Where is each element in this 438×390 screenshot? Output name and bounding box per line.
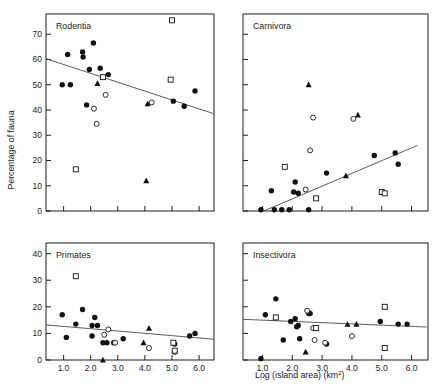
data-point-filled-circle	[287, 207, 292, 212]
data-point-open-circle	[311, 115, 316, 120]
x-tick-label: 3.0	[112, 363, 124, 373]
multi-panel-scatter-figure: 010203040506070RodentiaCarnivora01020304…	[0, 0, 438, 390]
series-filled-circle	[60, 307, 198, 347]
data-point-open-circle	[323, 340, 328, 345]
data-point-filled-circle	[60, 82, 65, 87]
data-point-open-square	[170, 18, 175, 23]
data-point-open-square	[73, 274, 78, 279]
data-point-filled-circle	[87, 67, 92, 72]
data-point-open-circle	[305, 308, 310, 313]
data-point-filled-triangle	[141, 340, 147, 346]
data-point-filled-circle	[121, 336, 126, 341]
panel-title-insectivora: Insectivora	[253, 250, 296, 260]
x-tick-label: 2.0	[85, 363, 97, 373]
data-point-filled-circle	[187, 333, 192, 338]
x-tick-label: 1.0	[58, 363, 70, 373]
data-point-open-circle	[103, 92, 108, 97]
data-point-open-square	[273, 315, 278, 320]
data-point-filled-circle	[73, 321, 78, 326]
data-point-open-circle	[349, 334, 354, 339]
data-point-filled-triangle	[306, 82, 312, 88]
series-filled-triangle	[306, 82, 361, 179]
data-point-filled-circle	[104, 340, 109, 345]
data-point-filled-circle	[92, 315, 97, 320]
y-tick-label: 30	[33, 275, 43, 285]
y-tick-label: 10	[33, 328, 43, 338]
data-point-filled-circle	[60, 312, 65, 317]
data-point-open-circle	[113, 340, 118, 345]
data-point-open-square	[314, 196, 319, 201]
y-tick-label: 50	[33, 80, 43, 90]
panel-rodentia: 010203040506070Rodentia	[33, 14, 214, 216]
data-point-filled-circle	[404, 321, 409, 326]
x-axis-title: Log (island area) (km2)	[255, 370, 344, 380]
data-point-filled-circle	[258, 356, 263, 361]
data-point-open-square	[382, 346, 387, 351]
data-point-open-square	[168, 77, 173, 82]
data-point-filled-circle	[306, 207, 311, 212]
data-point-filled-circle	[89, 323, 94, 328]
data-point-open-square	[382, 304, 387, 309]
data-point-filled-circle	[296, 323, 301, 328]
x-tick-label: 5.0	[166, 363, 178, 373]
panel-frame	[243, 243, 428, 360]
data-point-filled-circle	[324, 170, 329, 175]
series-open-square	[73, 274, 177, 353]
y-tick-label: 60	[33, 54, 43, 64]
y-tick-label: 20	[33, 302, 43, 312]
figure-container: 010203040506070RodentiaCarnivora01020304…	[0, 0, 438, 390]
x-tick-label: 4.0	[346, 363, 358, 373]
y-tick-label: 0	[37, 206, 42, 216]
data-point-filled-triangle	[355, 112, 361, 118]
data-point-filled-circle	[89, 333, 94, 338]
x-tick-label: 5.0	[376, 363, 388, 373]
series-filled-circle	[60, 40, 198, 109]
data-point-filled-circle	[64, 335, 69, 340]
data-point-filled-circle	[279, 207, 284, 212]
data-point-filled-circle	[80, 54, 85, 59]
x-axis-title-main: Log (island area) (km	[255, 370, 338, 380]
data-point-filled-circle	[192, 88, 197, 93]
data-point-filled-circle	[84, 102, 89, 107]
data-point-filled-circle	[395, 321, 400, 326]
data-point-filled-circle	[258, 207, 263, 212]
data-point-open-circle	[106, 327, 111, 332]
panel-primates: 0102030401.02.03.04.05.06.0Primates	[33, 243, 214, 373]
data-point-open-square	[382, 191, 387, 196]
data-point-filled-circle	[297, 336, 302, 341]
data-point-filled-triangle	[143, 177, 149, 183]
data-point-open-square	[314, 326, 319, 331]
series-open-square	[273, 304, 387, 350]
data-point-filled-circle	[392, 150, 397, 155]
data-point-filled-circle	[372, 153, 377, 158]
data-point-open-circle	[102, 332, 107, 337]
panel-insectivora: 1.02.03.04.05.06.0Insectivora	[243, 243, 428, 373]
data-point-filled-circle	[378, 319, 383, 324]
y-tick-label: 30	[33, 130, 43, 140]
data-point-open-square	[172, 348, 177, 353]
data-point-filled-circle	[68, 82, 73, 87]
y-tick-label: 40	[33, 105, 43, 115]
data-point-filled-circle	[395, 162, 400, 167]
panel-carnivora: Carnivora	[243, 14, 428, 212]
data-point-filled-triangle	[303, 349, 309, 355]
x-tick-label: 6.0	[193, 363, 205, 373]
data-point-filled-circle	[80, 49, 85, 54]
data-point-open-circle	[146, 346, 151, 351]
panel-frame	[243, 14, 428, 211]
data-point-open-square	[282, 164, 287, 169]
data-point-filled-circle	[273, 296, 278, 301]
y-tick-label: 70	[33, 29, 43, 39]
series-open-circle	[91, 92, 154, 126]
data-point-filled-circle	[296, 191, 301, 196]
panel-title-carnivora: Carnivora	[253, 21, 291, 31]
data-point-filled-triangle	[94, 80, 100, 86]
data-point-open-square	[73, 167, 78, 172]
data-point-filled-circle	[171, 98, 176, 103]
data-point-filled-circle	[97, 66, 102, 71]
data-point-open-square	[100, 75, 105, 80]
y-tick-label: 40	[33, 249, 43, 259]
data-point-filled-circle	[80, 307, 85, 312]
y-tick-label: 10	[33, 181, 43, 191]
data-point-filled-triangle	[146, 325, 152, 331]
